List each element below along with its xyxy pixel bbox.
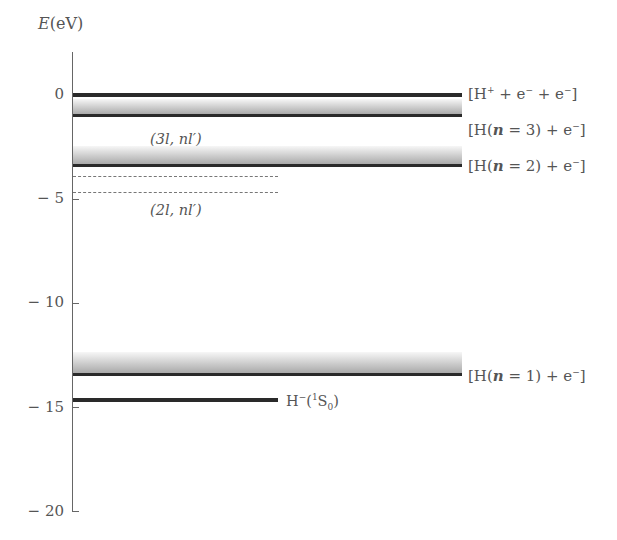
label-n3: [H(n = 3) + e−] xyxy=(468,121,586,139)
tick-label-0: 0 xyxy=(14,85,64,103)
label-text: [H( xyxy=(468,157,493,175)
dashed-level-upper xyxy=(73,176,278,177)
label-n: n xyxy=(493,157,504,175)
label-text: S xyxy=(318,393,328,409)
tick-minus-10 xyxy=(73,303,79,304)
label-text: [H xyxy=(468,85,487,103)
label-text: ] xyxy=(580,367,586,385)
y-axis-label: E(eV) xyxy=(38,14,83,33)
tick-label-minus-5: − 5 xyxy=(14,189,64,207)
tick-label-minus-15: − 15 xyxy=(14,398,64,416)
label-text: ) xyxy=(333,393,339,409)
y-axis-var: E xyxy=(38,14,50,33)
label-text: ] xyxy=(580,121,586,139)
continuum-band-n2 xyxy=(73,146,462,165)
level-h-minus xyxy=(73,398,278,402)
label-text: = 2) + e xyxy=(504,157,572,175)
label-text: = 3) + e xyxy=(504,121,572,139)
annotation-2l-nl: (2l, nl′) xyxy=(150,202,202,218)
tick-minus-5 xyxy=(73,199,79,200)
label-n2: [H(n = 2) + e−] xyxy=(468,157,586,175)
label-text: = 1) + e xyxy=(504,367,572,385)
y-axis-foot xyxy=(72,511,79,512)
label-text: ] xyxy=(572,85,578,103)
level-n3 xyxy=(73,114,462,117)
level-ionization xyxy=(73,93,462,97)
label-n: n xyxy=(493,121,504,139)
label-text: + e xyxy=(533,85,564,103)
continuum-band-n3 xyxy=(73,99,462,115)
tick-label-minus-10: − 10 xyxy=(14,293,64,311)
label-n1: [H(n = 1) + e−] xyxy=(468,367,586,385)
sup-minus: − xyxy=(564,85,572,95)
sup-minus: − xyxy=(572,157,580,167)
label-text: [H( xyxy=(468,367,493,385)
label-text: H xyxy=(286,393,299,409)
sup-minus: − xyxy=(525,85,533,95)
label-h-minus: H−(1S0) xyxy=(286,392,339,412)
annotation-3l-nl: (3l, nl′) xyxy=(150,131,202,147)
tick-minus-15 xyxy=(73,407,79,408)
tick-label-minus-20: − 20 xyxy=(14,502,64,520)
dashed-level-lower xyxy=(73,192,278,193)
sup-minus: − xyxy=(572,367,580,377)
label-n: n xyxy=(493,367,504,385)
y-axis-line xyxy=(72,52,73,512)
level-n1 xyxy=(73,373,462,376)
continuum-band-n1 xyxy=(73,352,462,374)
sup-minus: − xyxy=(572,121,580,131)
level-n2 xyxy=(73,164,462,167)
label-text: + e xyxy=(494,85,525,103)
label-text: ] xyxy=(580,157,586,175)
label-ionization: [H+ + e− + e−] xyxy=(468,85,577,103)
y-axis-unit: (eV) xyxy=(50,14,84,33)
label-text: [H( xyxy=(468,121,493,139)
